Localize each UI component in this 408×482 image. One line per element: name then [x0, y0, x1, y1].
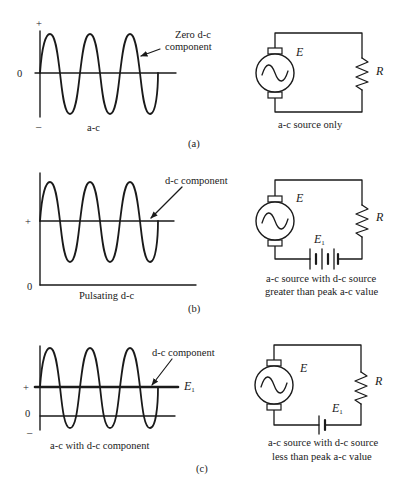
- waveform-c: + 0 – a-c with d-c component d-c compone…: [23, 346, 215, 451]
- waveform-caption: a-c with d-c component: [50, 440, 150, 451]
- circuit-caption-line-2: greater than peak a-c value: [265, 286, 378, 297]
- zero-label: 0: [25, 408, 30, 419]
- annotation-line-2: component: [165, 41, 212, 52]
- waveform-b: + 0 Pulsating d-c d-c component: [25, 173, 228, 301]
- brush-top-icon: [267, 360, 281, 366]
- battery-icon: [319, 416, 325, 434]
- top-wire: [275, 180, 362, 205]
- resistor-icon: [356, 205, 368, 237]
- circuit-caption-line-1: a-c source with d-c source: [266, 273, 377, 284]
- battery-icon: [310, 249, 338, 269]
- resistor-icon: [355, 372, 367, 404]
- ac-sine-wave: [40, 34, 158, 114]
- pulsating-dc-wave: [40, 182, 158, 262]
- circuit-caption-line-2: less than peak a-c value: [272, 451, 372, 462]
- zero-label: 0: [17, 68, 22, 79]
- top-wire: [275, 33, 362, 58]
- battery-label: E1: [331, 401, 343, 416]
- brush-bottom-icon: [267, 404, 281, 410]
- annotation-line-1: Zero d-c: [175, 29, 211, 40]
- circuit-caption: a-c source only: [278, 119, 343, 130]
- waveform-a: + 0 – a-c Zero d-c component: [17, 18, 212, 133]
- brush-bottom-icon: [268, 240, 282, 246]
- circuit-b: E R E1 a-c source with d-c source greate…: [256, 180, 384, 297]
- annotation-arrow-icon: [151, 187, 182, 218]
- minus-sign: –: [35, 121, 42, 132]
- minus-sign: –: [26, 427, 33, 438]
- panel-label: (c): [196, 463, 208, 475]
- zero-label: 0: [27, 281, 32, 292]
- source-label: E: [295, 191, 304, 205]
- brush-bottom-icon: [268, 92, 282, 98]
- annotation-line-1: d-c component: [152, 347, 215, 358]
- dc-level-label: E1: [183, 379, 195, 394]
- plus-sign: +: [36, 18, 42, 29]
- right-bottom-wire: [338, 237, 362, 259]
- circuit-caption-line-1: a-c source with d-c source: [268, 437, 379, 448]
- resistor-label: R: [375, 64, 384, 78]
- circuit-c: E R E1 a-c source with d-c source less t…: [255, 345, 383, 462]
- panel-c: + 0 – a-c with d-c component d-c compone…: [23, 345, 383, 475]
- source-label: E: [299, 361, 308, 375]
- right-bottom-wire: [325, 404, 361, 425]
- annotation-line-1: d-c component: [165, 175, 228, 186]
- battery-label: E1: [313, 232, 325, 247]
- resistor-icon: [356, 58, 368, 90]
- brush-top-icon: [268, 196, 282, 202]
- annotation-arrow-icon: [152, 359, 172, 385]
- annotation-arrow-icon: [141, 49, 160, 56]
- panel-a: + 0 – a-c Zero d-c component E R a-c sou…: [17, 18, 384, 150]
- brush-top-icon: [268, 48, 282, 54]
- panel-label: (b): [188, 303, 201, 315]
- waveform-caption: a-c: [87, 122, 100, 133]
- waveform-caption: Pulsating d-c: [79, 290, 134, 301]
- source-label: E: [295, 45, 304, 59]
- figure-canvas: + 0 – a-c Zero d-c component E R a-c sou…: [0, 0, 408, 482]
- resistor-label: R: [374, 374, 383, 388]
- resistor-label: R: [375, 210, 384, 224]
- panel-b: + 0 Pulsating d-c d-c component E: [25, 173, 384, 315]
- plus-sign: +: [25, 216, 31, 227]
- circuit-a: E R a-c source only: [256, 33, 384, 130]
- top-wire: [274, 345, 361, 372]
- plus-sign: +: [23, 382, 29, 393]
- bottom-wire: [275, 90, 362, 112]
- panel-label: (a): [188, 138, 200, 150]
